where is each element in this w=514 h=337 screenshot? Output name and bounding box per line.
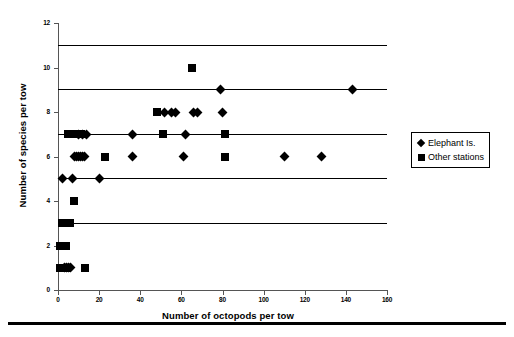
data-point-square (221, 130, 229, 138)
bottom-divider-rule (8, 322, 506, 325)
y-tick-label-4: 4 (28, 197, 50, 204)
data-point-square (66, 219, 74, 227)
x-tick-120 (305, 291, 306, 295)
y-tick-10 (54, 68, 58, 69)
y-axis-line (58, 23, 59, 291)
legend-label: Other stations (427, 152, 484, 162)
chart-legend: Elephant Is. Other stations (411, 132, 490, 168)
x-tick-40 (140, 291, 141, 295)
square-marker-icon (415, 154, 427, 161)
x-tick-label-20: 20 (86, 296, 112, 303)
x-tick-label-160: 160 (374, 296, 400, 303)
data-point-square (101, 153, 109, 161)
data-point-square (62, 242, 70, 250)
x-tick-140 (346, 291, 347, 295)
x-tick-label-120: 120 (292, 296, 318, 303)
y-tick-label-6: 6 (28, 153, 50, 160)
x-tick-label-60: 60 (168, 296, 194, 303)
y-tick-label-8: 8 (28, 108, 50, 115)
y-tick-label-0: 0 (28, 286, 50, 293)
data-point-square (77, 130, 85, 138)
x-axis-title: Number of octopods per tow (108, 310, 348, 321)
y-tick-4 (54, 201, 58, 202)
diamond-marker-icon (415, 140, 427, 146)
x-tick-160 (387, 291, 388, 295)
x-tick-100 (264, 291, 265, 295)
x-tick-label-80: 80 (210, 296, 236, 303)
data-point-square (159, 130, 167, 138)
data-point-square (153, 108, 161, 116)
x-tick-60 (181, 291, 182, 295)
scatter-chart-figure: 024681012020406080100120140160 Number of… (0, 0, 514, 337)
gridline-y-2 (58, 223, 387, 224)
gridline-y-10 (58, 45, 387, 46)
x-tick-20 (99, 291, 100, 295)
x-tick-80 (223, 291, 224, 295)
y-tick-label-12: 12 (28, 19, 50, 26)
y-tick-label-2: 2 (28, 242, 50, 249)
data-point-square (81, 264, 89, 272)
x-tick-label-140: 140 (333, 296, 359, 303)
legend-item-other-stations: Other stations (415, 150, 484, 164)
x-tick-label-100: 100 (251, 296, 277, 303)
x-tick-0 (58, 291, 59, 295)
legend-item-elephant-is: Elephant Is. (415, 136, 484, 150)
x-tick-label-0: 0 (45, 296, 71, 303)
data-point-square (221, 153, 229, 161)
y-tick-8 (54, 112, 58, 113)
y-tick-6 (54, 157, 58, 158)
data-point-square (70, 197, 78, 205)
data-point-square (188, 64, 196, 72)
gridline-y-4 (58, 178, 387, 179)
y-tick-label-10: 10 (28, 64, 50, 71)
y-tick-12 (54, 23, 58, 24)
y-axis-title: Number of species per tow (17, 51, 28, 241)
legend-label: Elephant Is. (427, 138, 476, 148)
x-tick-label-40: 40 (127, 296, 153, 303)
data-point-square (62, 264, 70, 272)
